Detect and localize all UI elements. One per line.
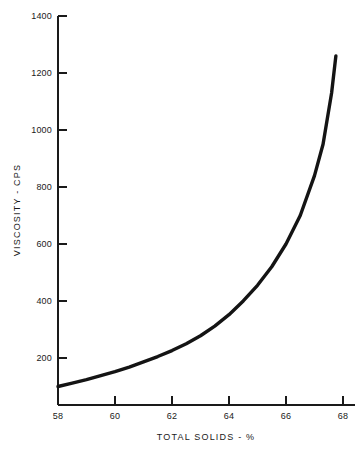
y-axis-ticks: 200400600800100012001400 <box>31 11 67 363</box>
chart-page: 200400600800100012001400 586062646668 VI… <box>0 0 363 452</box>
y-tick-label: 600 <box>36 239 52 249</box>
y-tick-label: 1000 <box>31 125 52 135</box>
y-tick-label: 400 <box>36 296 52 306</box>
y-tick-label: 200 <box>36 353 52 363</box>
x-tick-label: 68 <box>338 411 348 421</box>
viscosity-vs-total-solids-chart: 200400600800100012001400 586062646668 VI… <box>0 0 363 452</box>
x-tick-label: 60 <box>110 411 120 421</box>
x-tick-label: 58 <box>53 411 63 421</box>
y-axis-title: VISCOSITY - CPS <box>12 164 22 256</box>
y-tick-label: 1200 <box>31 68 52 78</box>
axes-group <box>58 16 355 405</box>
y-tick-label: 1400 <box>31 11 52 21</box>
x-axis-ticks: 586062646668 <box>53 396 348 421</box>
x-tick-label: 62 <box>167 411 177 421</box>
x-tick-label: 64 <box>224 411 234 421</box>
x-tick-label: 66 <box>281 411 291 421</box>
viscosity-curve <box>58 56 336 387</box>
y-tick-label: 800 <box>36 182 52 192</box>
x-axis-title: TOTAL SOLIDS - % <box>157 432 256 442</box>
